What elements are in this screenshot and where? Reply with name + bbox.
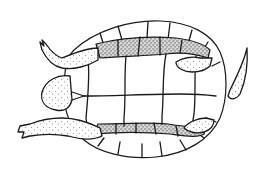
head [42,76,72,111]
tail [228,48,247,99]
turtle-illustration [0,0,260,178]
turtle-plastron-drawing [0,0,260,178]
